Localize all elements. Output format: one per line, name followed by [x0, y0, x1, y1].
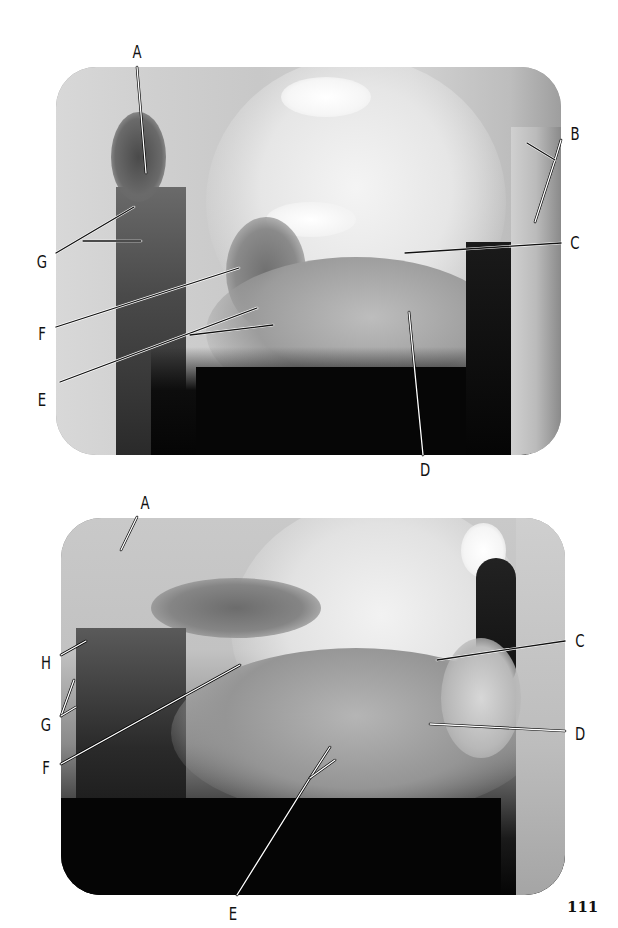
figure-label-d: D: [575, 726, 585, 743]
xray-right-soft: [516, 518, 565, 895]
xray-right-dark: [466, 242, 511, 455]
figure-label-g: G: [37, 254, 47, 271]
xray-right-soft: [511, 127, 561, 455]
radiograph-top: [56, 67, 561, 455]
figure-label-e: E: [229, 906, 237, 923]
figure-label-f: F: [42, 760, 50, 777]
figure-label-a: A: [132, 44, 141, 61]
figure-label-f: F: [38, 326, 46, 343]
figure-label-h: H: [41, 655, 51, 672]
xray-chin-bone: [441, 638, 521, 758]
figure-label-c: C: [570, 235, 579, 252]
figure-label-e: E: [38, 392, 46, 409]
xray-fillings: [281, 77, 371, 117]
xray-dark-cavity: [111, 112, 166, 202]
figure-label-b: B: [570, 126, 579, 143]
page-number: 111: [567, 898, 598, 916]
radiograph-bottom: [61, 518, 565, 895]
figure-label-a: A: [140, 495, 149, 512]
figure-label-g: G: [41, 717, 51, 734]
figure-label-d: D: [420, 462, 430, 479]
figure-label-c: C: [575, 633, 584, 650]
xray-dark-bottom: [61, 798, 501, 895]
